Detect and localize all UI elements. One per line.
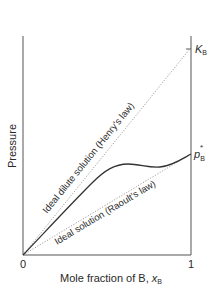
x-axis-label: Mole fraction of B, xB [60, 272, 162, 285]
pb-star-sup: * [200, 143, 203, 152]
x-tick-1: 1 [188, 258, 194, 270]
y-axis-label: Pressure [6, 124, 18, 168]
henry-law-line [23, 50, 189, 255]
x-tick-0: 0 [20, 258, 26, 270]
kb-label: KB [195, 43, 207, 56]
pressure-composition-chart: KB pB * Pressure 0 1 Mole fraction of B,… [0, 0, 220, 289]
